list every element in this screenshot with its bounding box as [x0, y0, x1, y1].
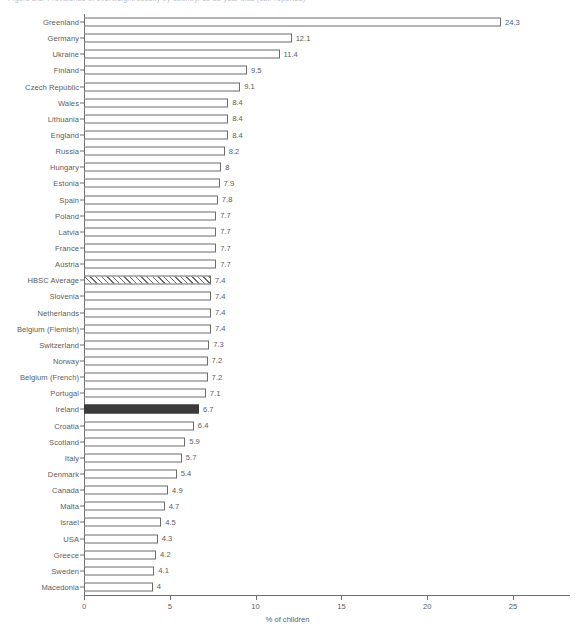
bar-category-label: Slovenia [49, 292, 79, 301]
bar-category-label: Sweden [51, 566, 79, 575]
bar [84, 114, 228, 123]
bar-value-label: 7.8 [222, 195, 233, 204]
bar-category-label: Belgium (French) [20, 373, 79, 382]
bar-container: 7.7 [84, 260, 216, 269]
bar [84, 356, 208, 365]
bar-value-label: 7.2 [212, 373, 223, 382]
bar-category-label: Czech Republic [25, 82, 79, 91]
bar-category-label: HBSC Average [27, 276, 79, 285]
bar-container: 7.2 [84, 373, 208, 382]
bar [84, 50, 280, 59]
bar [84, 453, 182, 462]
bar-value-label: 12.1 [296, 34, 311, 43]
bar-category-label: Scotland [49, 437, 79, 446]
bar-container: 8.4 [84, 131, 228, 140]
bar [84, 566, 154, 575]
bar-container: 7.4 [84, 276, 211, 285]
bar-row: Germany12.1 [0, 30, 575, 46]
bar-container: 8.4 [84, 98, 228, 107]
x-axis-title: % of children [0, 615, 575, 624]
bar [84, 195, 218, 204]
bar-container: 8.4 [84, 114, 228, 123]
bar [84, 518, 161, 527]
x-axis-tick-label: 25 [509, 602, 517, 611]
bar-value-label: 8.4 [232, 98, 243, 107]
bar-category-label: Greece [54, 550, 79, 559]
bar [84, 373, 208, 382]
bar-row: Scotland5.9 [0, 434, 575, 450]
bar-value-label: 7.7 [220, 260, 231, 269]
bar-container: 7.7 [84, 244, 216, 253]
bar-container: 4.5 [84, 518, 161, 527]
bar [84, 163, 221, 172]
bar-value-label: 5.9 [189, 437, 200, 446]
bar-container: 24.3 [84, 18, 501, 27]
bar-category-label: Malta [60, 502, 79, 511]
bar-container: 4.1 [84, 566, 154, 575]
bar-value-label: 8 [225, 163, 229, 172]
bar-row: Estonia7.9 [0, 175, 575, 191]
bar-category-label: Israel [60, 518, 79, 527]
bar-value-label: 4.2 [160, 550, 171, 559]
bar-value-label: 4 [157, 582, 161, 591]
bar-category-label: Croatia [54, 421, 79, 430]
bar [84, 421, 194, 430]
bar [84, 244, 216, 253]
x-axis-tick [170, 596, 171, 600]
bar [84, 486, 168, 495]
bar-value-label: 24.3 [505, 18, 520, 27]
bar-container: 7.1 [84, 389, 206, 398]
bar-category-label: Greenland [43, 18, 79, 27]
bar [84, 18, 501, 27]
bar-category-label: Norway [53, 356, 79, 365]
bar-container: 4.3 [84, 534, 158, 543]
bar-container: 5.9 [84, 437, 185, 446]
bar-container: 4 [84, 582, 153, 591]
bar-row: France7.7 [0, 240, 575, 256]
bar-row: England8.4 [0, 127, 575, 143]
bar [84, 308, 211, 317]
bar-value-label: 7.9 [224, 179, 235, 188]
bar-category-label: Ireland [55, 405, 79, 414]
bar-category-label: USA [63, 534, 79, 543]
bar [84, 405, 199, 414]
bar-row: Lithuania8.4 [0, 111, 575, 127]
bar-row: Switzerland7.3 [0, 337, 575, 353]
bar-category-label: Belgium (Flemish) [17, 324, 79, 333]
bar-category-label: Spain [59, 195, 79, 204]
bar-category-label: Canada [52, 486, 79, 495]
bar-container: 11.4 [84, 50, 280, 59]
x-axis-tick [84, 596, 85, 600]
bar-value-label: 8.4 [232, 114, 243, 123]
bar-row: USA4.3 [0, 530, 575, 546]
bar-container: 4.7 [84, 502, 165, 511]
bar-category-label: Lithuania [48, 114, 79, 123]
bar-row: Macedonia4 [0, 579, 575, 595]
x-axis-tick-label: 10 [251, 602, 259, 611]
x-axis-tick-label: 5 [168, 602, 172, 611]
bar [84, 502, 165, 511]
bar-container: 12.1 [84, 34, 292, 43]
bar [84, 582, 153, 591]
bar [84, 227, 216, 236]
bar-container: 7.7 [84, 227, 216, 236]
bar-category-label: England [51, 131, 79, 140]
bar-category-label: Poland [55, 211, 79, 220]
bar-value-label: 7.1 [210, 389, 221, 398]
bar-row: Poland7.7 [0, 208, 575, 224]
bar-value-label: 9.5 [251, 66, 262, 75]
bar [84, 34, 292, 43]
bar-row: Croatia6.4 [0, 417, 575, 433]
bar-category-label: Hungary [50, 163, 79, 172]
bar-value-label: 5.7 [186, 453, 197, 462]
bar-category-label: Netherlands [38, 308, 80, 317]
bar-row: Israel4.5 [0, 514, 575, 530]
x-axis-tick [256, 596, 257, 600]
bar [84, 340, 209, 349]
bar-value-label: 7.7 [220, 211, 231, 220]
bar-container: 7.3 [84, 340, 209, 349]
bar-category-label: Portugal [50, 389, 79, 398]
x-axis-tick [513, 596, 514, 600]
bar-value-label: 4.5 [165, 518, 176, 527]
bar-value-label: 4.3 [162, 534, 173, 543]
